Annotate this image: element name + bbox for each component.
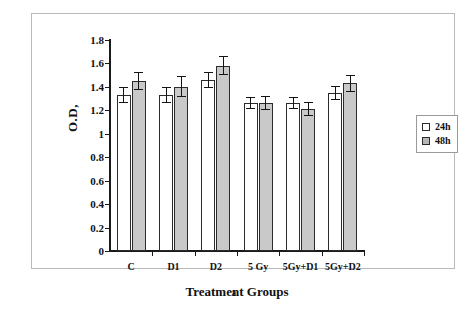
error-bar-cap-top xyxy=(119,87,128,88)
bar-5-gy-24h xyxy=(244,103,258,251)
bar-d1-48h xyxy=(174,87,188,251)
y-tick-label: 1.4 xyxy=(90,81,104,92)
error-bar-cap-top xyxy=(304,102,313,103)
x-tick-mark xyxy=(195,251,196,256)
x-axis-label-5gy-d1: 5Gy+D1 xyxy=(283,262,319,272)
error-bar-d1-24h xyxy=(162,87,171,103)
error-bar-cap-top xyxy=(246,97,255,98)
error-bar-cap-bottom xyxy=(346,91,355,92)
error-bar-d2-48h xyxy=(219,56,228,75)
legend-swatch-48h-icon xyxy=(422,137,430,145)
legend-item-48h: 48h xyxy=(422,134,451,148)
y-tick-mark xyxy=(105,204,110,205)
error-bar-cap-bottom xyxy=(331,99,340,100)
error-bar-cap-top xyxy=(331,86,340,87)
x-axis-label-5gy-d2: 5Gy+D2 xyxy=(325,262,361,272)
error-bar-stem xyxy=(308,102,309,116)
x-axis-label-d2: D2 xyxy=(210,262,222,272)
error-bar-cap-bottom xyxy=(246,108,255,109)
y-tick-mark xyxy=(105,134,110,135)
x-tick-mark xyxy=(279,251,280,256)
error-bar-5gy-d2-24h xyxy=(331,86,340,100)
error-bar-cap-top xyxy=(204,72,213,73)
error-bar-stem xyxy=(335,86,336,100)
error-bar-cap-top xyxy=(219,56,228,57)
error-bar-5gy-d1-48h xyxy=(304,102,313,116)
legend-item-24h: 24h xyxy=(422,120,451,134)
bar-c-24h xyxy=(117,95,131,251)
figure-frame: O.D, 00.20.40.60.811.21.41.61.8CD1D25 Gy… xyxy=(31,13,455,269)
y-tick-label: 0.2 xyxy=(90,222,104,233)
plot-area: 00.20.40.60.811.21.41.61.8CD1D25 Gy5Gy+D… xyxy=(110,40,364,251)
error-bar-5gy-d1-24h xyxy=(289,97,298,109)
error-bar-cap-bottom xyxy=(261,109,270,110)
y-tick-mark xyxy=(105,63,110,64)
error-bar-stem xyxy=(265,96,266,110)
legend-swatch-24h-icon xyxy=(422,123,430,131)
x-axis-label-c: C xyxy=(128,262,135,272)
error-bar-stem xyxy=(138,72,139,91)
legend-label-24h: 24h xyxy=(435,122,451,132)
error-bar-stem xyxy=(123,87,124,103)
error-bar-cap-top xyxy=(346,75,355,76)
error-bar-cap-top xyxy=(177,76,186,77)
chart-legend: 24h 48h xyxy=(416,115,458,153)
bar-5-gy-48h xyxy=(259,103,273,251)
x-tick-mark xyxy=(237,251,238,256)
error-bar-5-gy-24h xyxy=(246,97,255,109)
error-bar-stem xyxy=(181,76,182,97)
bar-5gy-d1-48h xyxy=(301,109,315,251)
y-tick-mark xyxy=(105,40,110,41)
error-bar-c-48h xyxy=(134,72,143,91)
x-tick-mark xyxy=(364,251,365,256)
y-tick-mark xyxy=(105,228,110,229)
y-tick-mark xyxy=(105,87,110,88)
bar-d2-24h xyxy=(201,80,215,251)
x-tick-mark xyxy=(322,251,323,256)
y-tick-mark xyxy=(105,181,110,182)
y-tick-label: 1.8 xyxy=(90,35,104,46)
y-tick-mark xyxy=(105,110,110,111)
error-bar-c-24h xyxy=(119,87,128,103)
x-tick-mark xyxy=(152,251,153,256)
error-bar-cap-bottom xyxy=(219,74,228,75)
error-bar-stem xyxy=(223,56,224,75)
y-tick-label: 1 xyxy=(99,128,105,139)
error-bar-cap-bottom xyxy=(162,102,171,103)
error-bar-stem xyxy=(166,87,167,103)
y-tick-label: 0.6 xyxy=(90,175,104,186)
error-bar-cap-top xyxy=(162,87,171,88)
error-bar-stem xyxy=(208,72,209,88)
x-axis-label-5-gy: 5 Gy xyxy=(248,262,268,272)
y-axis-title: O.D, xyxy=(65,104,81,132)
y-tick-label: 1.2 xyxy=(90,105,104,116)
error-bar-cap-top xyxy=(134,72,143,73)
y-tick-label: 0 xyxy=(99,246,105,257)
error-bar-5-gy-48h xyxy=(261,96,270,110)
x-axis-label-d1: D1 xyxy=(167,262,179,272)
error-bar-cap-bottom xyxy=(289,108,298,109)
error-bar-cap-bottom xyxy=(204,87,213,88)
legend-label-48h: 48h xyxy=(435,136,451,146)
error-bar-cap-bottom xyxy=(119,102,128,103)
y-tick-label: 0.8 xyxy=(90,152,104,163)
error-bar-cap-top xyxy=(261,96,270,97)
bar-d1-24h xyxy=(159,95,173,251)
y-tick-mark xyxy=(105,251,110,252)
error-bar-cap-top xyxy=(289,97,298,98)
y-tick-label: 1.6 xyxy=(90,58,104,69)
error-bar-stem xyxy=(350,75,351,91)
y-tick-label: 0.4 xyxy=(90,199,104,210)
bar-d2-48h xyxy=(216,66,230,251)
bar-c-48h xyxy=(132,81,146,251)
error-bar-cap-bottom xyxy=(177,96,186,97)
error-bar-cap-bottom xyxy=(304,115,313,116)
y-tick-mark xyxy=(105,157,110,158)
bar-5gy-d2-24h xyxy=(328,93,342,251)
error-bar-d1-48h xyxy=(177,76,186,97)
figure-caption: a xyxy=(0,286,468,298)
error-bar-cap-bottom xyxy=(134,89,143,90)
error-bar-5gy-d2-48h xyxy=(346,75,355,91)
error-bar-d2-24h xyxy=(204,72,213,88)
bar-5gy-d2-48h xyxy=(343,83,357,251)
